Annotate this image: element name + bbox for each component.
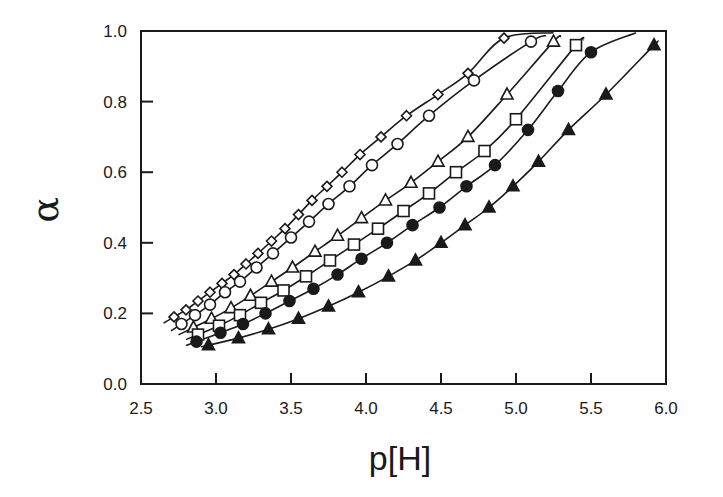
filled-triangle-marker <box>459 219 471 230</box>
open-circle-marker <box>469 75 480 86</box>
series-3-markers <box>188 35 560 332</box>
y-tick-label: 0.2 <box>103 304 127 323</box>
filled-circle-marker <box>553 86 564 97</box>
x-axis: 2.53.03.54.04.55.05.56.0 <box>129 373 678 418</box>
x-tick-label: 3.5 <box>279 399 303 418</box>
open-square-marker <box>451 167 462 178</box>
filled-circle-marker <box>260 308 271 319</box>
filled-circle-marker <box>284 296 295 307</box>
y-axis-label: α <box>23 197 67 223</box>
open-square-marker <box>398 206 409 217</box>
filled-circle-marker <box>308 283 319 294</box>
filled-circle-marker <box>332 269 343 280</box>
open-circle-marker <box>205 299 216 310</box>
y-axis: 0.00.20.40.60.81.0 <box>103 22 153 394</box>
open-circle-marker <box>392 138 403 149</box>
diamond-marker <box>499 33 509 43</box>
open-circle-marker <box>268 248 279 259</box>
series-2-markers <box>176 36 537 329</box>
filled-circle-marker <box>586 47 597 58</box>
x-tick-label: 5.0 <box>504 399 528 418</box>
open-circle-marker <box>220 287 231 298</box>
filled-triangle-marker <box>435 236 447 247</box>
x-tick-label: 2.5 <box>129 399 153 418</box>
diamond-marker <box>433 90 443 100</box>
filled-triangle-marker <box>648 39 660 50</box>
open-square-marker <box>571 40 582 51</box>
open-square-marker <box>349 239 360 250</box>
filled-circle-marker <box>191 336 202 347</box>
x-tick-label: 5.5 <box>579 399 603 418</box>
open-circle-marker <box>176 318 187 329</box>
open-triangle-marker <box>432 155 444 166</box>
series-3-curve <box>179 36 562 335</box>
open-square-marker <box>256 297 267 308</box>
filled-circle-marker <box>215 327 226 338</box>
open-triangle-marker <box>266 275 278 286</box>
open-circle-marker <box>424 110 435 121</box>
open-circle-marker <box>251 262 262 273</box>
filled-circle-marker <box>434 202 445 213</box>
open-circle-marker <box>367 160 378 171</box>
open-triangle-marker <box>287 261 299 272</box>
y-tick-label: 1.0 <box>103 22 127 41</box>
x-tick-label: 6.0 <box>654 399 678 418</box>
filled-circle-marker <box>461 181 472 192</box>
y-tick-label: 0.0 <box>103 375 127 394</box>
x-tick-label: 3.0 <box>204 399 228 418</box>
filled-circle-marker <box>238 318 249 329</box>
open-triangle-marker <box>245 289 257 300</box>
open-square-marker <box>301 271 312 282</box>
y-tick-label: 0.6 <box>103 163 127 182</box>
filled-circle-marker <box>382 237 393 248</box>
open-square-marker <box>373 223 384 234</box>
y-tick-label: 0.4 <box>103 234 127 253</box>
fit-curves <box>164 33 659 347</box>
chart: 2.53.03.54.04.55.05.56.0 0.00.20.40.60.8… <box>0 0 723 497</box>
open-circle-marker <box>323 198 334 209</box>
open-square-marker <box>511 114 522 125</box>
open-circle-marker <box>344 181 355 192</box>
open-circle-marker <box>526 36 537 47</box>
filled-triangle-marker <box>353 286 365 297</box>
open-circle-marker <box>235 276 246 287</box>
x-tick-label: 4.5 <box>429 399 453 418</box>
data-markers <box>169 33 660 350</box>
open-triangle-marker <box>332 229 344 240</box>
filled-circle-marker <box>356 253 367 264</box>
open-square-marker <box>325 255 336 266</box>
open-square-marker <box>479 146 490 157</box>
open-square-marker <box>278 285 289 296</box>
open-square-marker <box>424 188 435 199</box>
filled-triangle-marker <box>483 201 495 212</box>
open-triangle-marker <box>309 245 321 256</box>
filled-circle-marker <box>407 220 418 231</box>
open-circle-marker <box>286 232 297 243</box>
series-4-curve <box>186 38 584 340</box>
x-axis-label: p[H] <box>369 439 431 477</box>
open-circle-marker <box>304 216 315 227</box>
open-triangle-marker <box>380 194 392 205</box>
open-circle-marker <box>190 310 201 321</box>
open-triangle-marker <box>405 176 417 187</box>
x-tick-label: 4.0 <box>354 399 378 418</box>
open-triangle-marker <box>356 212 368 223</box>
y-tick-label: 0.8 <box>103 93 127 112</box>
filled-circle-marker <box>490 160 501 171</box>
filled-circle-marker <box>523 124 534 135</box>
filled-triangle-marker <box>410 254 422 265</box>
filled-triangle-marker <box>383 270 395 281</box>
series-5-markers <box>191 47 597 347</box>
